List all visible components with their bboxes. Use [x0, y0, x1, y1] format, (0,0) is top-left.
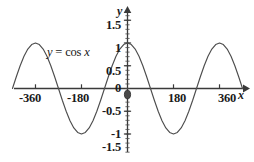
- x-tick-label-360: 360: [208, 92, 246, 105]
- equation-lhs: y: [47, 45, 52, 59]
- y-tick-label-1: 1: [94, 42, 121, 55]
- cosine-graph-figure: y x 1.5 1 0.5 0 -0.5 -1 -1.5 -360 -180 1…: [0, 0, 254, 162]
- y-tick-label-minus0.5: -0.5: [90, 105, 121, 118]
- origin-dot-marker: [124, 90, 130, 99]
- plot-canvas: [0, 0, 254, 162]
- equation-function: cos: [65, 45, 81, 59]
- x-tick-label-minus180: -180: [56, 92, 100, 105]
- x-tick-label-180: 180: [158, 92, 196, 105]
- y-axis-label: y: [117, 5, 122, 17]
- y-tick-label-minus1: -1: [90, 128, 121, 141]
- equation-argument: x: [84, 45, 89, 59]
- y-tick-label-minus1.5: -1.5: [90, 141, 121, 154]
- y-tick-label-1.5: 1.5: [94, 19, 121, 32]
- y-axis-arrow-icon: [124, 6, 132, 13]
- x-tick-label-minus360: -360: [8, 92, 52, 105]
- equation-equals: =: [55, 45, 62, 59]
- equation-annotation: y=cosx: [47, 46, 90, 59]
- y-tick-label-0.5: 0.5: [94, 65, 121, 78]
